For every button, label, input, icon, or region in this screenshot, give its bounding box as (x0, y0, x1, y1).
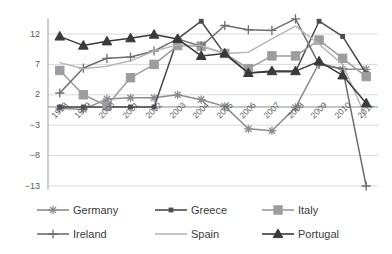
legend-marker-plus-icon (36, 227, 70, 241)
plot-area (0, 0, 392, 200)
marker-triangle (55, 31, 65, 40)
marker-dot (199, 19, 203, 23)
legend-item-italy[interactable]: Italy (261, 200, 318, 220)
legend-label: Germany (73, 205, 118, 216)
plot-svg (0, 0, 392, 200)
series-germany (55, 59, 370, 135)
legend-item-ireland[interactable]: Ireland (36, 224, 107, 244)
y-axis-tick-label: 7 (14, 60, 40, 69)
legend-label: Greece (191, 205, 227, 216)
marker-square (150, 60, 158, 68)
y-axis-tick-label: 12 (14, 30, 40, 39)
marker-plus (244, 25, 253, 34)
marker-plus (48, 229, 57, 238)
marker-plus (102, 54, 111, 63)
marker-square (79, 91, 87, 99)
marker-plus (362, 181, 371, 190)
marker-dot (317, 19, 321, 23)
legend-item-greece[interactable]: Greece (154, 200, 227, 220)
marker-asterisk (268, 126, 277, 134)
marker-square (268, 52, 276, 60)
marker-square (274, 206, 282, 214)
marker-square (126, 74, 134, 82)
marker-square (291, 52, 299, 60)
legend-marker-small-diamond-icon (154, 203, 188, 217)
legend-label: Portugal (298, 229, 339, 240)
series-line (60, 63, 366, 131)
marker-square (56, 66, 64, 74)
legend-marker-square-icon (261, 203, 295, 217)
legend-label: Italy (298, 205, 318, 216)
legend-item-spain[interactable]: Spain (154, 224, 219, 244)
y-axis-tick-label: 2 (14, 90, 40, 99)
legend-marker-asterisk-icon (36, 203, 70, 217)
legend-label: Spain (191, 229, 219, 240)
y-axis-tick-label: −3 (14, 121, 40, 130)
line-chart: 1272−3−8−13 1998199920002001200220032004… (0, 0, 392, 254)
marker-asterisk (49, 206, 58, 214)
marker-square (362, 72, 370, 80)
legend-label: Ireland (73, 229, 107, 240)
legend-marker-triangle-icon (261, 227, 295, 241)
marker-asterisk (244, 125, 253, 133)
marker-plus (291, 14, 300, 23)
y-axis-tick-label: −8 (14, 151, 40, 160)
marker-square (315, 36, 323, 44)
y-axis-tick-label: −13 (14, 182, 40, 191)
legend-item-portugal[interactable]: Portugal (261, 224, 339, 244)
marker-asterisk (173, 91, 182, 99)
chart-legend: GermanyGreeceItalyIrelandSpainPortugal (36, 200, 366, 250)
legend-marker-none-icon (154, 227, 188, 241)
legend-item-germany[interactable]: Germany (36, 200, 118, 220)
marker-dot (169, 208, 173, 212)
marker-dot (341, 35, 345, 39)
